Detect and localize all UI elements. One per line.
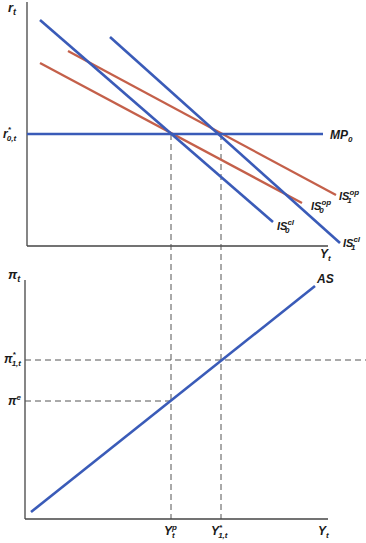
bottom-x-axis-label: Yt (318, 524, 329, 540)
is1op-curve (68, 51, 336, 195)
top-y-axis-label: rt (8, 0, 17, 17)
r-star-label: r*0,t (3, 125, 16, 143)
ystar-label: Y*1,t (211, 523, 228, 540)
mp-label: MP0 (330, 128, 353, 144)
is0cl-curve (40, 20, 273, 222)
as-label: AS (316, 272, 334, 286)
is0op-label: ISop0 (311, 198, 331, 215)
yp-label: Ypt (164, 523, 177, 540)
top-x-axis-label: Yt (320, 247, 331, 263)
is0cl-label: IScl0 (277, 218, 295, 235)
is1cl-label: IScl1 (343, 235, 361, 252)
pi-star-label: π*1,t (4, 350, 21, 368)
as-curve (31, 286, 315, 512)
pi-e-label: πe (8, 393, 22, 408)
is-mp-as-diagram: rt r*0,t MP0 ISop1 ISop0 IScl0 IScl1 Yt … (0, 0, 366, 543)
bottom-y-axis-label: πt (8, 267, 21, 284)
is1op-label: ISop1 (339, 188, 359, 205)
is1cl-curve (110, 37, 340, 243)
